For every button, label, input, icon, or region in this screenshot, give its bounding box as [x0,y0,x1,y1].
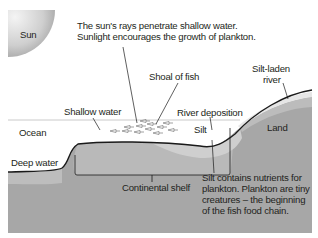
shoal-leader [156,83,178,124]
silt-note-line4: of the fish food chain. [202,205,289,216]
river-deposition-label: River deposition [177,107,243,118]
continental-shelf-label: Continental shelf [122,182,190,193]
deep-water-label: Deep water [11,157,58,168]
shallow-water-label: Shallow water [64,106,121,117]
silt-note-line3: creatures – the beginning [202,194,305,205]
sun-caption-leader [123,47,137,123]
sun-caption-line1: The sun's rays penetrate shallow water. [77,20,237,31]
silt-laden-river-label-line2: river [263,74,281,85]
shoal-of-fish-label: Shoal of fish [149,71,199,82]
river-deposition-leader [210,117,212,130]
ocean-label: Ocean [19,127,46,138]
silt-laden-river-leader [283,83,288,99]
silt-label: Silt [194,124,207,135]
silt-note-line1: Silt contains nutrients for [202,172,302,183]
coastal-diagram: Sun The sun's rays penetrate shallow wat… [0,0,318,238]
silt-laden-river-label-line1: Silt-laden [252,63,290,74]
sun-label: Sun [20,29,36,40]
silt-note-line2: plankton. Plankton are tiny [202,183,310,194]
sun-caption-line2: Sunlight encourages the growth of plankt… [77,31,256,42]
fish-shoal-icon [110,120,178,135]
land-label: Land [267,122,288,133]
